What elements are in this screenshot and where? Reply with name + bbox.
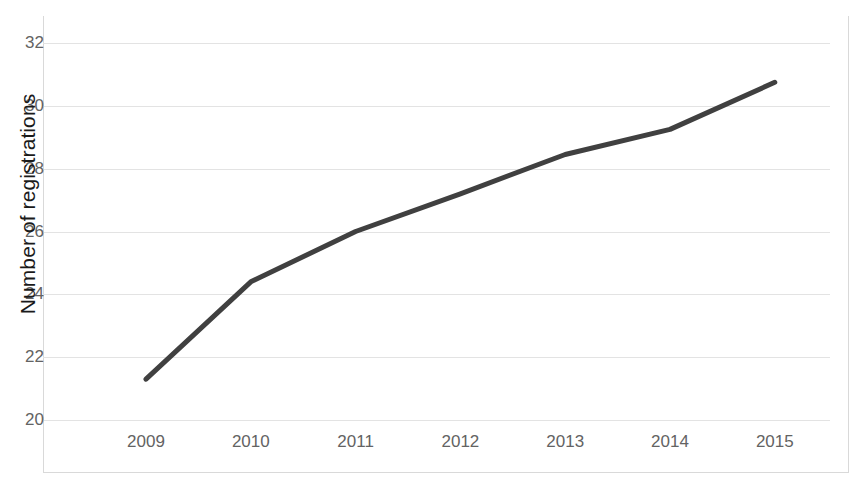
x-tick-label-2011: 2011 — [311, 432, 401, 452]
y-axis-title: Number of registrations — [16, 4, 40, 404]
gridline-28 — [43, 169, 830, 170]
gridline-24 — [43, 294, 830, 295]
x-tick-label-2010: 2010 — [206, 432, 296, 452]
gridline-30 — [43, 106, 830, 107]
gridline-26 — [43, 232, 830, 233]
chart-screenshot: 20222426283032 2009201020112012201320142… — [0, 0, 866, 489]
x-tick-label-2015: 2015 — [730, 432, 820, 452]
y-tick-label-20: 20 — [4, 410, 44, 430]
x-tick-label-2013: 2013 — [520, 432, 610, 452]
x-tick-label-2014: 2014 — [625, 432, 715, 452]
gridline-20 — [43, 420, 830, 421]
x-tick-label-2012: 2012 — [415, 432, 505, 452]
gridline-32 — [43, 43, 830, 44]
x-tick-label-2009: 2009 — [101, 432, 191, 452]
plot-area-frame — [43, 16, 849, 473]
gridline-22 — [43, 357, 830, 358]
